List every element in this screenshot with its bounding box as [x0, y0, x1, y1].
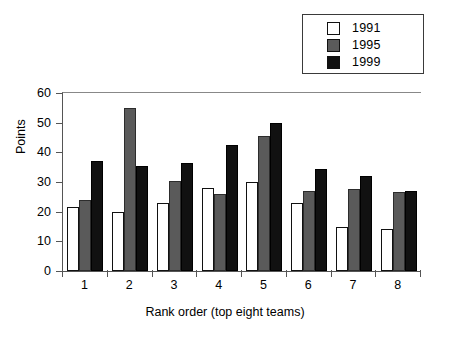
x-axis-tick — [420, 270, 421, 277]
bar-group-3 — [153, 93, 198, 271]
y-axis-tick-label: 60 — [37, 85, 51, 102]
bar-1991-rank-3 — [157, 203, 169, 271]
legend-swatch-1999 — [327, 56, 340, 69]
legend-swatch-1991 — [327, 22, 340, 35]
bar-group-4 — [197, 93, 242, 271]
x-axis-tick — [62, 270, 63, 277]
x-axis-category-labels: 12345678 — [62, 278, 420, 296]
legend-label-1991: 1991 — [352, 22, 381, 35]
x-axis-category-4: 4 — [196, 278, 241, 296]
bar-1995-rank-7 — [348, 189, 360, 271]
y-axis-tick-label: 10 — [37, 233, 51, 250]
bar-group-8 — [376, 93, 421, 271]
legend-swatch-1995 — [327, 39, 340, 52]
bar-group-6 — [287, 93, 332, 271]
y-axis-tick-label: 40 — [37, 144, 51, 161]
x-axis-category-5: 5 — [241, 278, 286, 296]
x-axis-category-3: 3 — [152, 278, 197, 296]
bar-series-container — [63, 93, 421, 271]
plot-area: 0102030405060 — [62, 92, 421, 272]
bar-1999-rank-6 — [315, 169, 327, 271]
bar-1999-rank-3 — [181, 163, 193, 271]
bar-1991-rank-5 — [246, 182, 258, 271]
y-axis-tick: 20 — [56, 212, 63, 213]
bar-1999-rank-5 — [270, 123, 282, 271]
x-axis-tick — [107, 270, 108, 277]
x-axis-category-7: 7 — [331, 278, 376, 296]
legend-item-1995: 1995 — [303, 37, 423, 54]
bar-1995-rank-2 — [124, 108, 136, 271]
x-axis-label: Rank order (top eight teams) — [0, 305, 450, 319]
y-axis-tick-label: 30 — [37, 174, 51, 191]
bar-group-2 — [108, 93, 153, 271]
y-axis-tick-label: 20 — [37, 204, 51, 221]
legend-item-1999: 1999 — [303, 54, 423, 71]
bar-chart-figure: 1991 1995 1999 Points 0102030405060 1234… — [0, 0, 450, 339]
legend-item-1991: 1991 — [303, 20, 423, 37]
bar-group-7 — [332, 93, 377, 271]
y-axis-tick-label: 50 — [37, 115, 51, 132]
bar-group-5 — [242, 93, 287, 271]
bar-1999-rank-4 — [226, 145, 238, 271]
bar-1991-rank-8 — [381, 229, 393, 271]
bar-1991-rank-1 — [67, 207, 79, 271]
x-axis-category-2: 2 — [107, 278, 152, 296]
bar-1995-rank-6 — [303, 191, 315, 271]
x-axis-tick — [241, 270, 242, 277]
x-axis-tick — [331, 270, 332, 277]
x-axis-ticks — [62, 270, 420, 277]
bar-1999-rank-2 — [136, 166, 148, 271]
x-axis-tick — [196, 270, 197, 277]
legend-label-1995: 1995 — [352, 39, 381, 52]
x-axis-tick — [152, 270, 153, 277]
bar-1995-rank-4 — [214, 194, 226, 271]
bar-1995-rank-1 — [79, 200, 91, 271]
x-axis-category-8: 8 — [375, 278, 420, 296]
x-axis-category-6: 6 — [286, 278, 331, 296]
bar-1999-rank-1 — [91, 161, 103, 271]
y-axis-tick-label: 0 — [44, 263, 51, 280]
chart-legend: 1991 1995 1999 — [302, 14, 424, 74]
bar-1991-rank-2 — [112, 212, 124, 271]
bar-group-1 — [63, 93, 108, 271]
x-axis-tick — [375, 270, 376, 277]
bar-1995-rank-3 — [169, 181, 181, 271]
x-axis-tick — [286, 270, 287, 277]
y-axis-label: Points — [14, 119, 28, 154]
y-axis-tick: 10 — [56, 241, 63, 242]
y-axis-tick: 50 — [56, 123, 63, 124]
x-axis-category-1: 1 — [62, 278, 107, 296]
y-axis-tick: 60 — [56, 93, 63, 94]
bar-1991-rank-7 — [336, 227, 348, 272]
bar-1991-rank-6 — [291, 203, 303, 271]
y-axis-tick: 40 — [56, 152, 63, 153]
bar-1995-rank-5 — [258, 136, 270, 271]
bar-1999-rank-7 — [360, 176, 372, 271]
bar-1995-rank-8 — [393, 192, 405, 271]
bar-1999-rank-8 — [405, 191, 417, 271]
y-axis-tick: 30 — [56, 182, 63, 183]
bar-1991-rank-4 — [202, 188, 214, 271]
legend-label-1999: 1999 — [352, 56, 381, 69]
